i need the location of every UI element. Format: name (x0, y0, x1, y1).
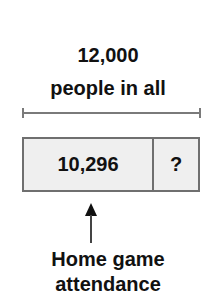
tape-diagram-bar: 10,296 ? (22, 137, 200, 192)
bracket-cap-left (22, 108, 24, 118)
total-caption: people in all (0, 76, 216, 100)
total-bracket (22, 108, 201, 118)
total-value: 12,000 (0, 43, 216, 67)
unknown-part-segment: ? (154, 139, 198, 190)
up-arrow-icon (84, 203, 98, 243)
bracket-line (22, 112, 201, 114)
pointer-label-line2: attendance (0, 272, 216, 297)
bracket-cap-right (199, 108, 201, 118)
known-part-segment: 10,296 (24, 139, 154, 190)
pointer-label-line1: Home game (0, 247, 216, 272)
